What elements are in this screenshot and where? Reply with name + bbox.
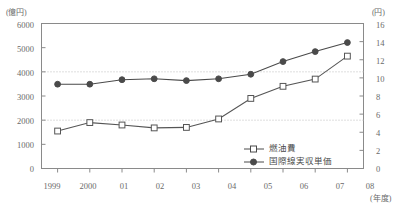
- plot-area: [0, 0, 408, 210]
- legend: 燃油費 国際線実収単価: [243, 142, 332, 168]
- legend-label-intl-unit-price: 国際線実収単価: [269, 155, 332, 168]
- filled-circle-marker-icon: [243, 157, 265, 167]
- legend-item-fuel-cost: 燃油費: [243, 142, 332, 155]
- legend-item-intl-unit-price: 国際線実収単価: [243, 155, 332, 168]
- fuel-cost-line-chart: (億円) (円) 6000 5000 4000 3000 2000 1000 0…: [0, 0, 408, 210]
- open-square-marker-icon: [243, 144, 265, 154]
- legend-label-fuel-cost: 燃油費: [269, 142, 296, 155]
